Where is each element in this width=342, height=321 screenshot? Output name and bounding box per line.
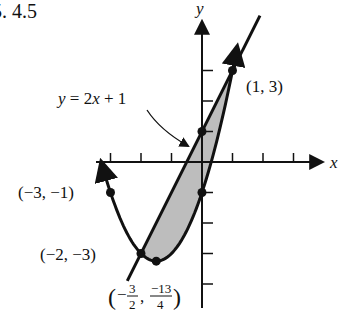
problem-number: 5. 4.5 bbox=[0, 0, 37, 22]
y-axis-label: y bbox=[194, 0, 204, 18]
line-equation-label: y = 2x + 1 bbox=[56, 89, 126, 108]
svg-text:−13: −13 bbox=[151, 281, 171, 296]
point-label-vertex: ( − 3 2 , −13 4 ) bbox=[108, 281, 181, 312]
point-marker bbox=[106, 188, 115, 197]
point-marker bbox=[198, 188, 207, 197]
svg-text:3: 3 bbox=[129, 281, 136, 296]
point-marker bbox=[137, 249, 146, 258]
point-marker bbox=[228, 66, 237, 75]
svg-text:,: , bbox=[140, 287, 144, 306]
svg-text:4: 4 bbox=[157, 297, 164, 312]
point-label-neg2-neg3: (−2, −3) bbox=[40, 245, 96, 264]
svg-text:−: − bbox=[117, 285, 127, 304]
svg-text:2: 2 bbox=[129, 297, 136, 312]
point-marker bbox=[198, 127, 207, 136]
graph-figure: 5. 4.5 x y y = 2x + 1 (1, 3) (−3, −1) (−… bbox=[0, 0, 342, 321]
point-marker bbox=[152, 257, 161, 266]
svg-text:): ) bbox=[173, 284, 181, 310]
annotation-arrow bbox=[147, 110, 188, 146]
point-label-1-3: (1, 3) bbox=[246, 77, 283, 96]
svg-text:(: ( bbox=[108, 284, 116, 310]
line-curve bbox=[127, 16, 260, 281]
x-axis-label: x bbox=[329, 153, 338, 172]
point-label-neg3-neg1: (−3, −1) bbox=[18, 183, 74, 202]
